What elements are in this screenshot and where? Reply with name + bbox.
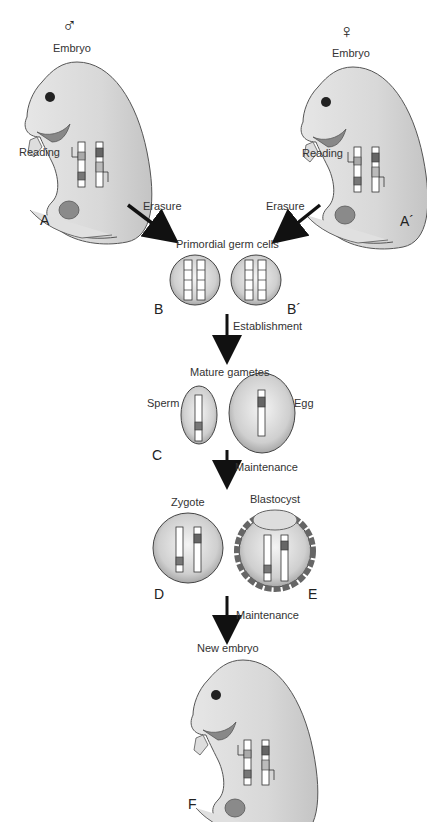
panel-label-c: C <box>152 447 162 463</box>
gametes-title: Mature gametes <box>190 366 269 378</box>
panel-label-a-prime: A´ <box>400 213 414 229</box>
panel-label-d: D <box>154 586 164 602</box>
erasure-label-right: Erasure <box>266 200 305 212</box>
female-symbol: ♀ <box>339 20 354 43</box>
egg-cell <box>229 373 295 453</box>
pgc-cell-b-prime <box>231 255 281 305</box>
imprinting-diagram <box>0 0 427 822</box>
sperm-cell <box>181 386 217 444</box>
male-embryo-label: Embryo <box>53 42 91 54</box>
female-embryo-label: Embryo <box>332 47 370 59</box>
panel-label-e: E <box>308 586 317 602</box>
zygote-label: Zygote <box>171 496 205 508</box>
blastocyst-label: Blastocyst <box>250 493 300 505</box>
panel-label-a: A <box>40 212 49 228</box>
new-embryo-illustration <box>191 660 318 822</box>
blastocyst <box>237 510 313 589</box>
male-symbol: ♂ <box>62 14 77 37</box>
panel-label-b-prime: B´ <box>287 301 301 317</box>
panel-label-b: B <box>154 301 163 317</box>
maintenance-label-1: Maintenance <box>235 461 298 473</box>
maintenance-label-2: Maintenance <box>236 609 299 621</box>
new-embryo-title: New embryo <box>197 642 259 654</box>
pgc-cell-b <box>170 255 220 305</box>
egg-label: Egg <box>294 397 314 409</box>
sperm-label: Sperm <box>147 397 179 409</box>
pgc-title: Primordial germ cells <box>176 238 279 250</box>
male-reading-label: Reading <box>19 146 60 158</box>
panel-label-f: F <box>188 796 197 812</box>
erasure-label-left: Erasure <box>143 200 182 212</box>
zygote-cell <box>153 513 223 583</box>
establishment-label: Establishment <box>233 320 302 332</box>
female-reading-label: Reading <box>302 147 343 159</box>
